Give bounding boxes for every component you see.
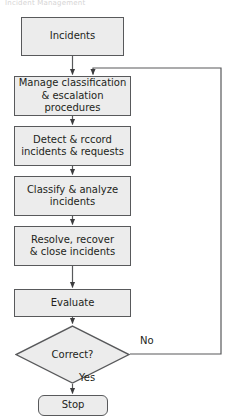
node-incidents[interactable]: Incidents	[21, 17, 124, 56]
node-manage-classification[interactable]: Manage classification & escalation proce…	[14, 76, 131, 116]
node-stop[interactable]: Stop	[38, 395, 108, 416]
flowchart-canvas: Incident Management	[0, 0, 234, 419]
node-stop-label: Stop	[62, 399, 85, 412]
edge-label-no: No	[140, 335, 154, 346]
node-manage-classification-label: Manage classification & escalation proce…	[19, 77, 127, 115]
node-detect-record[interactable]: Detect & rccord incidents & requests	[14, 126, 131, 166]
node-incidents-label: Incidents	[50, 30, 96, 43]
node-evaluate-label: Evaluate	[51, 297, 95, 310]
node-classify-analyze[interactable]: Classify & analyze incidents	[14, 176, 131, 216]
edge-label-yes: Yes	[79, 372, 95, 383]
node-resolve-recover[interactable]: Resolve, recover & close incidents	[14, 226, 131, 266]
node-detect-record-label: Detect & rccord incidents & requests	[21, 134, 124, 159]
node-classify-analyze-label: Classify & analyze incidents	[27, 184, 118, 209]
node-correct-decision-label: Correct?	[52, 349, 94, 361]
caption-fragment: Incident Management	[5, 0, 95, 7]
node-correct-decision[interactable]: Correct?	[15, 325, 130, 384]
node-evaluate[interactable]: Evaluate	[14, 289, 131, 317]
node-resolve-recover-label: Resolve, recover & close incidents	[30, 234, 115, 259]
